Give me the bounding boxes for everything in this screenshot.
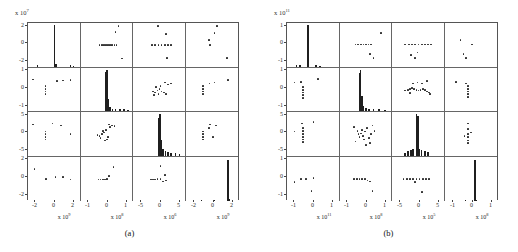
x-axis-exponent-label: x 108 — [370, 212, 383, 220]
scatter-point — [365, 144, 367, 146]
scatter-point — [45, 91, 47, 93]
scatter-point — [162, 181, 164, 183]
x-axis-exponent-base: x 10 — [164, 214, 175, 220]
x-tick-label: 0 — [100, 202, 114, 208]
scatter-point — [313, 177, 315, 179]
histogram-bar — [424, 151, 426, 155]
x-tick-mark — [160, 200, 161, 202]
scatter-point — [426, 80, 428, 82]
x-axis-exponent-label: x 106 — [164, 212, 177, 220]
histogram-bar — [315, 65, 317, 66]
y-tick-mark — [284, 158, 286, 159]
scatter-point — [411, 44, 413, 46]
scatter-point — [209, 83, 211, 85]
x-axis-exponent-base: x 10 — [111, 214, 122, 220]
scatter-point — [416, 89, 418, 91]
scatter-point — [302, 133, 304, 135]
scatter-point — [467, 85, 469, 87]
scatter-point — [158, 44, 160, 46]
y-tick-mark — [284, 87, 286, 88]
diagonal-histogram-cell-b-0 — [287, 23, 340, 68]
scatter-point — [45, 88, 47, 90]
scatter-point — [373, 57, 375, 59]
scatter-point — [202, 139, 204, 141]
histogram-bar — [112, 109, 114, 111]
x-tick-label: -5 — [133, 202, 147, 208]
x-tick-label: 0 — [153, 202, 167, 208]
y-tick-label: -1 — [270, 102, 283, 108]
scatter-point — [208, 127, 210, 129]
scatter-point — [414, 44, 416, 46]
x-axis-exponent-base: x 10 — [217, 214, 228, 220]
panel-caption-b: (b) — [259, 228, 518, 238]
scatter-point — [367, 180, 369, 182]
scatter-point — [45, 139, 47, 141]
scatter-point — [209, 124, 211, 126]
scatter-point — [164, 174, 166, 176]
histogram-bar — [404, 153, 406, 155]
histogram-bar — [319, 66, 321, 67]
scatter-point — [121, 58, 123, 60]
scatter-point — [302, 130, 304, 132]
x-tick-mark — [179, 200, 180, 202]
scatter-point — [374, 130, 376, 132]
x-tick-label: 1 — [378, 202, 392, 208]
scatter-cell-b-0-2 — [392, 23, 445, 68]
y-tick-label: 0 — [11, 84, 24, 90]
histogram-bar — [296, 65, 298, 67]
y-tick-mark — [25, 194, 27, 195]
scatter-point — [357, 44, 359, 46]
scatter-point — [302, 136, 304, 138]
x-tick-label: -1 — [445, 202, 459, 208]
scatter-point — [45, 131, 47, 133]
scatter-point — [52, 123, 54, 125]
x-axis-exponent-base: x 10 — [370, 214, 381, 220]
x-axis-exponent-value: 5 — [433, 212, 435, 217]
scatter-point — [216, 25, 218, 27]
scatter-point — [45, 133, 47, 135]
histogram-bar — [229, 199, 231, 201]
x-tick-mark — [213, 200, 214, 202]
scatter-point — [430, 44, 432, 46]
y-tick-mark — [284, 42, 286, 43]
x-axis-exponent-value: 8 — [486, 212, 488, 217]
scatter-point — [460, 39, 462, 41]
scatter-point — [108, 175, 110, 177]
x-axis-exponent-base: x 10 — [423, 214, 434, 220]
scatter-cell-b-2-1 — [340, 112, 393, 157]
scatter-point — [202, 91, 204, 93]
scatter-point — [154, 92, 156, 94]
x-axis-exponent-value: 9 — [227, 212, 229, 217]
scatter-point — [419, 178, 421, 180]
scatter-point — [313, 121, 315, 123]
scatter-point — [151, 44, 153, 46]
y-tick-label: 0 — [11, 128, 24, 134]
x-tick-label: 1 — [325, 202, 339, 208]
y-tick-label: 5 — [270, 111, 283, 117]
scatter-point — [370, 133, 372, 135]
scatter-point — [114, 125, 116, 127]
histogram-bar — [465, 200, 467, 201]
scatter-point — [412, 178, 414, 180]
scatter-point — [215, 125, 217, 127]
scatter-cell-b-1-2 — [392, 68, 445, 113]
y-axis-exponent-value-b: 11 — [285, 8, 289, 13]
scatter-point — [353, 126, 355, 128]
scatter-point — [164, 82, 166, 84]
scatter-point — [154, 44, 156, 46]
y-tick-label: 1 — [11, 66, 24, 72]
y-tick-label: 1 — [270, 155, 283, 161]
y-tick-mark — [25, 87, 27, 88]
x-tick-label: -1 — [80, 202, 94, 208]
y-tick-label: 0 — [270, 39, 283, 45]
scatter-point — [170, 83, 172, 85]
y-tick-label: -1 — [270, 191, 283, 197]
histogram-bar — [421, 150, 423, 156]
y-tick-mark — [284, 25, 286, 26]
scatter-point — [202, 131, 204, 133]
histogram-bar — [476, 200, 478, 201]
y-tick-label: 1 — [270, 66, 283, 72]
scatter-point — [155, 86, 157, 88]
y-tick-mark — [284, 60, 286, 61]
scatter-point — [311, 190, 313, 192]
